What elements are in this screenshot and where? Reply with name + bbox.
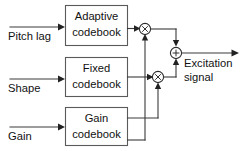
block-diagram: Adaptive codebook Fixed codebook Gain co… (0, 0, 246, 151)
wire-fixed-to-multiplier-mid (128, 74, 154, 80)
wire-multiplier-mid-to-summer (164, 59, 180, 78)
diagram-canvas: Adaptive codebook Fixed codebook Gain co… (0, 0, 246, 151)
wire-adaptive-to-multiplier-top (128, 25, 141, 31)
wire-gain-to-multiplier-mid (128, 83, 162, 119)
block-gain-codebook[interactable]: Gain codebook (66, 108, 128, 146)
gain-codebook-label-line2: codebook (72, 128, 121, 140)
input-label-pitch-lag: Pitch lag (8, 30, 51, 42)
gain-codebook-label-line1: Gain (85, 112, 109, 124)
adaptive-codebook-label-line2: codebook (72, 26, 121, 38)
wire-summer-to-output (182, 49, 239, 56)
input-label-gain: Gain (8, 130, 32, 142)
multiplier-top[interactable] (139, 23, 150, 34)
multiplier-mid[interactable] (152, 71, 163, 82)
wire-gain-to-multiplier-top (128, 34, 149, 140)
output-label-line2: signal (184, 71, 213, 83)
wire-multiplier-top-to-summer (151, 29, 180, 47)
output-label-line1: Excitation (184, 57, 233, 69)
fixed-codebook-label-line2: codebook (72, 78, 121, 90)
summer[interactable] (170, 47, 181, 58)
fixed-codebook-label-line1: Fixed (83, 62, 110, 74)
input-label-shape: Shape (8, 82, 40, 94)
block-adaptive-codebook[interactable]: Adaptive codebook (66, 6, 128, 46)
block-fixed-codebook[interactable]: Fixed codebook (66, 58, 128, 97)
adaptive-codebook-label-line1: Adaptive (75, 10, 119, 22)
